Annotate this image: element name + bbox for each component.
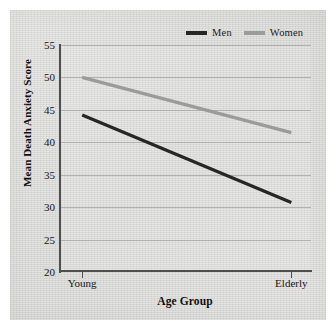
x-axis-title: Age Group: [59, 295, 311, 307]
line-swatch-icon: [244, 31, 265, 35]
y-axis-tick-label: 30: [33, 201, 55, 213]
figure-canvas: Men Women 2025303540455055 YoungElderly …: [0, 0, 336, 330]
line-swatch-icon: [186, 31, 207, 35]
y-axis-tick-label: 50: [33, 71, 55, 83]
chart-legend: Men Women: [186, 24, 334, 41]
y-axis-tick-label: 45: [33, 104, 55, 116]
series-lines: [59, 45, 311, 272]
x-axis-tick: [291, 271, 292, 278]
y-axis-tick-label: 40: [33, 136, 55, 148]
x-axis-tick-label: Young: [68, 277, 97, 289]
series-line-women: [82, 77, 291, 132]
legend-entry-women[interactable]: Women: [244, 27, 303, 38]
x-axis-tick-label: Elderly: [275, 277, 307, 289]
y-axis-tick-label: 35: [33, 169, 55, 181]
plot-area: [59, 45, 311, 272]
legend-label-women: Women: [270, 27, 303, 38]
x-axis-tick-labels: YoungElderly: [59, 277, 311, 293]
y-axis-tick-label: 55: [33, 39, 55, 51]
x-axis-tick: [82, 271, 83, 278]
y-axis-tick-label: 25: [33, 234, 55, 246]
legend-label-men: Men: [212, 27, 232, 38]
y-axis-tick-label: 20: [33, 266, 55, 278]
y-axis-tick-labels: 2025303540455055: [33, 45, 55, 272]
y-axis-title: Mean Death Anxiety Score: [21, 33, 33, 213]
legend-entry-men[interactable]: Men: [186, 27, 232, 38]
series-line-men: [82, 115, 291, 203]
